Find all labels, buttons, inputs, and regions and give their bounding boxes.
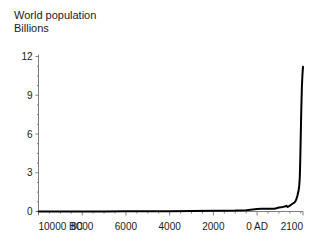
y-tick-label: 12 (21, 51, 33, 62)
y-tick-label: 3 (27, 167, 33, 178)
x-tick-label: 0 AD (246, 221, 268, 232)
y-axis: 036912 (21, 51, 38, 217)
x-tick-label: 4000 (159, 221, 182, 232)
population-line-series (39, 67, 304, 212)
y-tick-label: 0 (27, 206, 33, 217)
y-tick-label: 6 (27, 129, 33, 140)
plot-area: 036912 10000 BC80006000400020000 AD2100 (0, 0, 310, 245)
x-axis: 10000 BC80006000400020000 AD2100 (39, 212, 304, 232)
x-tick-label: 2100 (281, 221, 304, 232)
x-tick-label: 2000 (202, 221, 225, 232)
x-tick-label: 8000 (71, 221, 94, 232)
population-line (39, 67, 304, 212)
world-population-chart: World population Billions 036912 10000 B… (0, 0, 310, 245)
x-tick-label: 6000 (115, 221, 138, 232)
y-tick-label: 9 (27, 90, 33, 101)
